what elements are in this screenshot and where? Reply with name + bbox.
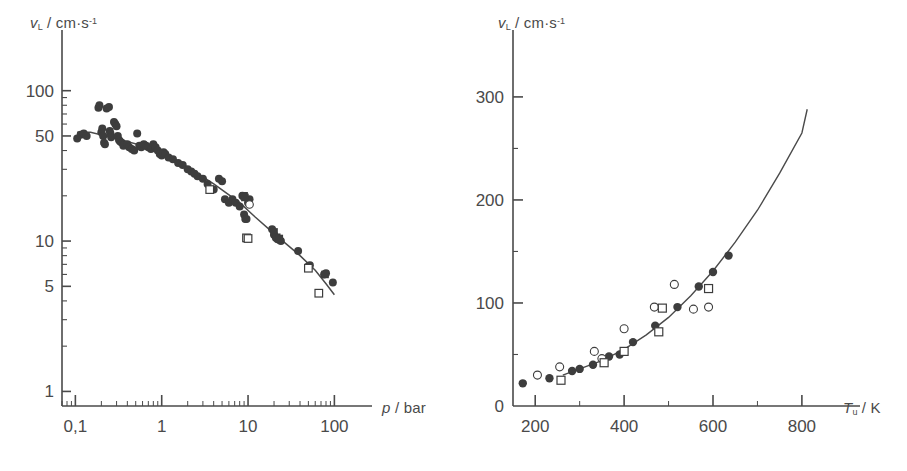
y-axis-subscript-left: L xyxy=(38,22,43,32)
y-axis-slash-left: / xyxy=(47,14,56,31)
x-axis-unit-right: K xyxy=(871,399,881,416)
y-tick-label: 1 xyxy=(45,382,54,401)
y-axis-exponent-left: -1 xyxy=(89,16,97,26)
y-axis-title-left: vL / cm·s-1 xyxy=(30,14,97,32)
y-tick-label: 100 xyxy=(476,294,504,313)
y-axis-slash-right: / xyxy=(515,14,524,31)
data-point-open-circle xyxy=(705,303,713,311)
y-axis-subscript-right: L xyxy=(506,22,511,32)
data-point-open-circle xyxy=(556,363,564,371)
x-tick-label: 0,1 xyxy=(64,417,88,436)
data-point-filled-circle xyxy=(545,374,553,382)
y-tick-label: 10 xyxy=(35,232,54,251)
data-point-filled-circle xyxy=(568,367,576,375)
y-axis-exponent-right: -1 xyxy=(557,16,565,26)
data-point-filled-circle xyxy=(709,268,717,276)
data-point-filled-circle xyxy=(695,282,703,290)
x-tick-label: 800 xyxy=(788,417,816,436)
y-tick-label: 100 xyxy=(26,82,54,101)
data-point-filled-circle xyxy=(575,365,583,373)
fit-curve-path xyxy=(77,132,334,295)
data-point-filled-circle xyxy=(673,303,681,311)
data-point-filled-square xyxy=(321,271,329,279)
data-point-filled-circle xyxy=(95,101,103,109)
y-axis-unit2-right: s xyxy=(549,14,557,31)
data-point-filled-circle xyxy=(519,379,527,387)
y-tick-label: 300 xyxy=(476,88,504,107)
temperature-chart-svg: 0100200300200400600800 xyxy=(450,0,907,471)
data-point-filled-circle xyxy=(133,129,141,137)
x-axis-unit-left: bar xyxy=(404,399,426,416)
data-point-open-square xyxy=(244,235,252,243)
x-tick-label: 100 xyxy=(320,417,348,436)
data-point-filled-circle xyxy=(724,251,732,259)
data-point-open-circle xyxy=(533,371,541,379)
y-tick-label: 0 xyxy=(495,397,504,416)
y-axis-unit-right: cm xyxy=(524,14,544,31)
figure-root: 1510501000,1110100 vL / cm·s-1 p / bar 0… xyxy=(0,0,907,471)
y-tick-label: 50 xyxy=(35,127,54,146)
data-point-open-circle xyxy=(689,305,697,313)
data-point-filled-circle xyxy=(113,122,121,130)
data-point-filled-circle xyxy=(218,177,226,185)
data-point-filled-circle xyxy=(294,247,302,255)
x-axis-symbol-right: T xyxy=(843,399,852,416)
x-tick-label: 10 xyxy=(239,417,258,436)
left-fit-curve xyxy=(77,132,334,295)
x-tick-label: 200 xyxy=(521,417,549,436)
right-fit-curve xyxy=(563,109,807,375)
fit-curve-path xyxy=(563,109,807,375)
data-point-filled-circle xyxy=(589,361,597,369)
data-point-filled-circle xyxy=(107,133,115,141)
y-axis-title-right: vL / cm·s-1 xyxy=(498,14,565,32)
chart-panel-temperature: 0100200300200400600800 xyxy=(450,0,907,471)
x-axis-slash-right: / xyxy=(857,399,870,416)
data-point-filled-circle xyxy=(629,338,637,346)
data-point-open-square xyxy=(315,289,323,297)
data-point-open-square xyxy=(206,186,214,194)
y-tick-label: 200 xyxy=(476,191,504,210)
data-point-open-square xyxy=(658,304,666,312)
data-point-open-square xyxy=(600,359,608,367)
data-point-open-circle xyxy=(650,303,658,311)
data-point-filled-square xyxy=(275,235,283,243)
y-axis-symbol-left: v xyxy=(30,14,38,31)
data-point-open-square xyxy=(557,376,565,384)
x-tick-label: 400 xyxy=(610,417,638,436)
data-point-filled-square xyxy=(241,194,249,202)
data-point-filled-circle xyxy=(98,125,106,133)
data-point-open-square xyxy=(620,347,628,355)
data-point-filled-circle xyxy=(236,202,244,210)
right-data-points xyxy=(519,251,733,387)
x-tick-label: 1 xyxy=(157,417,166,436)
data-point-open-square xyxy=(305,264,313,272)
data-point-open-circle xyxy=(246,201,254,209)
data-point-filled-circle xyxy=(99,132,107,140)
data-point-filled-circle xyxy=(101,140,109,148)
left-data-points xyxy=(73,101,337,297)
data-point-open-circle xyxy=(670,280,678,288)
data-point-filled-circle xyxy=(105,103,113,111)
x-axis-title-left: p / bar xyxy=(382,399,426,416)
y-axis-unit-left: cm xyxy=(56,14,76,31)
right-axes xyxy=(513,30,860,406)
data-point-open-square xyxy=(705,285,713,293)
y-axis-unit2-left: s xyxy=(81,14,89,31)
data-point-filled-circle xyxy=(83,132,91,140)
data-point-open-square xyxy=(655,328,663,336)
left-tick-labels: 1510501000,1110100 xyxy=(26,82,349,436)
data-point-open-circle xyxy=(620,325,628,333)
data-point-filled-circle xyxy=(243,215,251,223)
x-axis-title-right: Tu / K xyxy=(843,399,881,417)
data-point-open-circle xyxy=(590,347,598,355)
x-axis-symbol-left: p xyxy=(382,399,391,416)
x-tick-label: 600 xyxy=(699,417,727,436)
data-point-filled-circle xyxy=(329,279,337,287)
y-axis-symbol-right: v xyxy=(498,14,506,31)
left-axes xyxy=(62,30,372,406)
y-tick-label: 5 xyxy=(45,277,54,296)
x-axis-slash-left: / xyxy=(391,399,404,416)
